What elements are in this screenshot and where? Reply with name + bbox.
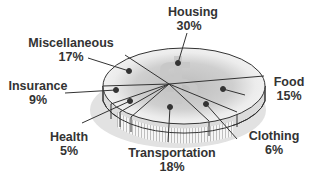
label-miscellaneous-pct: 17% [26,50,116,64]
label-clothing: Clothing 6% [247,129,301,157]
label-clothing-pct: 6% [247,143,301,157]
label-food-name: Food [271,75,307,89]
label-insurance-name: Insurance [8,79,68,93]
label-food-pct: 15% [271,89,307,103]
label-transportation-pct: 18% [128,160,216,174]
label-transportation-name: Transportation [128,146,216,160]
label-housing: Housing 30% [168,5,210,33]
label-food: Food 15% [271,75,307,103]
label-health: Health 5% [48,130,90,158]
label-clothing-name: Clothing [247,129,301,143]
label-transportation: Transportation 18% [128,146,216,174]
label-health-pct: 5% [48,144,90,158]
label-insurance-pct: 9% [8,93,68,107]
label-housing-name: Housing [168,5,210,19]
label-miscellaneous: Miscellaneous 17% [26,36,116,64]
label-housing-pct: 30% [168,19,210,33]
label-miscellaneous-name: Miscellaneous [26,36,116,50]
label-insurance: Insurance 9% [8,79,68,107]
pie-face [103,48,265,124]
label-health-name: Health [48,130,90,144]
